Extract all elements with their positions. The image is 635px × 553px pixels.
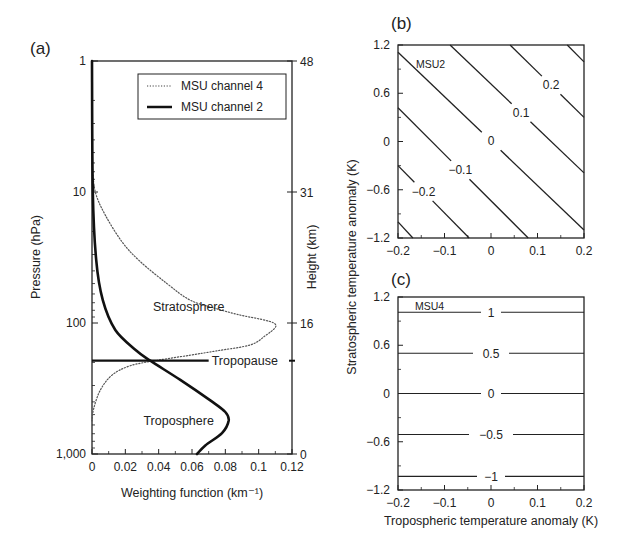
y-tick-label: 0.6 — [373, 86, 390, 100]
right-tick-label: 0 — [300, 448, 307, 462]
panel-c-annotation: MSU4 — [415, 300, 444, 312]
panel-b: (b) −0.2−0.100.10.2 −0.2−0.100.10.2−1.2−… — [366, 14, 592, 258]
y-tick-label: 100 — [66, 316, 86, 330]
panel-b-contours: −0.2−0.100.10.2 — [398, 45, 584, 238]
contour-line — [530, 122, 584, 173]
x-tick-label: 0.1 — [529, 244, 546, 258]
y-tick-label: −0.6 — [366, 435, 390, 449]
region-label: Stratosphere — [153, 300, 225, 314]
y-tick-label: 0 — [383, 135, 390, 149]
panel-a-y-axis-title: Pressure (hPa) — [29, 215, 43, 299]
panel-c-ticks: −0.2−0.100.10.2−1.2−0.600.61.2 — [366, 290, 592, 510]
y-tick-label: 1 — [79, 54, 86, 68]
y-tick-label: −0.6 — [366, 183, 390, 197]
x-tick-label: 0 — [89, 460, 96, 474]
contour-label: −0.5 — [479, 428, 503, 442]
panel-c-x-axis-title: Tropospheric temperature anomaly (K) — [384, 514, 598, 528]
legend: MSU channel 4 MSU channel 2 — [138, 74, 286, 119]
contour-label: −0.1 — [448, 163, 472, 177]
x-tick-label: 0 — [488, 496, 495, 510]
contour-line — [510, 45, 542, 76]
legend-label-channel-4: MSU channel 4 — [181, 79, 263, 93]
contour-label: 0.1 — [513, 106, 530, 120]
x-tick-label: 0.04 — [147, 460, 171, 474]
contour-line — [450, 45, 512, 104]
x-tick-label: 0.2 — [576, 244, 593, 258]
legend-label-channel-2: MSU channel 2 — [181, 100, 263, 114]
panel-b-label: (b) — [391, 14, 412, 33]
y-tick-label: 1.2 — [373, 290, 390, 304]
contour-label: 1 — [488, 306, 495, 320]
contour-line — [433, 201, 470, 238]
figure: (a) 1101001,000 00.020.040.060.080.10.12… — [0, 0, 635, 553]
panel-a-x-axis-title: Weighting function (km⁻¹) — [121, 486, 263, 500]
panel-a-frame — [92, 61, 292, 454]
contour-line — [501, 150, 584, 230]
right-tick-label: 16 — [300, 317, 314, 331]
y-tick-label: 10 — [73, 185, 87, 199]
contour-label: 0 — [488, 134, 495, 148]
x-tick-label: 0.02 — [114, 460, 138, 474]
contour-label: 0.5 — [483, 347, 500, 361]
y-tick-label: −1.2 — [366, 483, 390, 497]
contour-label: −1 — [484, 470, 498, 484]
contour-line — [567, 45, 584, 62]
panel-a-series — [92, 61, 276, 454]
tropopause-label: Tropopause — [212, 354, 278, 368]
contour-line — [469, 179, 528, 238]
panel-a: (a) 1101001,000 00.020.040.060.080.10.12… — [29, 39, 319, 500]
contour-label: −0.2 — [412, 185, 436, 199]
panel-b-annotation: MSU2 — [416, 58, 445, 70]
y-tick-label: 1.2 — [373, 38, 390, 52]
y-tick-label: 0 — [383, 387, 390, 401]
panel-c-contours: 10.50−0.5−1 — [398, 306, 584, 484]
contour-label: 0.2 — [543, 78, 560, 92]
contour-line — [398, 166, 414, 183]
panel-a-label: (a) — [30, 39, 51, 58]
panel-a-x-ticks: 00.020.040.060.080.10.12 — [89, 449, 304, 474]
y-tick-label: 1,000 — [56, 447, 86, 461]
panel-c-label: (c) — [391, 270, 411, 289]
panel-a-right-axis-title: Height (km) — [305, 225, 319, 290]
y-tick-label: −1.2 — [366, 231, 390, 245]
x-tick-label: 0 — [488, 244, 495, 258]
contour-line — [560, 94, 584, 117]
contour-line — [398, 222, 413, 238]
x-tick-label: −0.2 — [386, 496, 410, 510]
x-tick-label: 0.2 — [576, 496, 593, 510]
x-tick-label: 0.1 — [529, 496, 546, 510]
panel-a-reference: Tropopause — [92, 354, 295, 368]
region-label: Troposphere — [143, 414, 213, 428]
x-tick-label: 0.06 — [180, 460, 204, 474]
x-tick-label: 0.12 — [280, 460, 304, 474]
contour-line — [398, 108, 451, 161]
right-tick-label: 48 — [300, 55, 314, 69]
x-tick-label: −0.2 — [386, 244, 410, 258]
contour-label: 0 — [488, 387, 495, 401]
right-tick-label: 31 — [300, 186, 314, 200]
series-line-msu-channel-2 — [92, 61, 229, 454]
x-tick-label: 0.1 — [250, 460, 267, 474]
x-tick-label: 0.08 — [214, 460, 238, 474]
panel-c: (c) 10.50−0.5−1 −0.2−0.100.10.2−1.2−0.60… — [366, 270, 598, 528]
x-tick-label: −0.1 — [433, 496, 457, 510]
y-tick-label: 0.6 — [373, 338, 390, 352]
shared-y-axis-title: Stratospheric temperature anomaly (K) — [345, 159, 359, 374]
x-tick-label: −0.1 — [433, 244, 457, 258]
